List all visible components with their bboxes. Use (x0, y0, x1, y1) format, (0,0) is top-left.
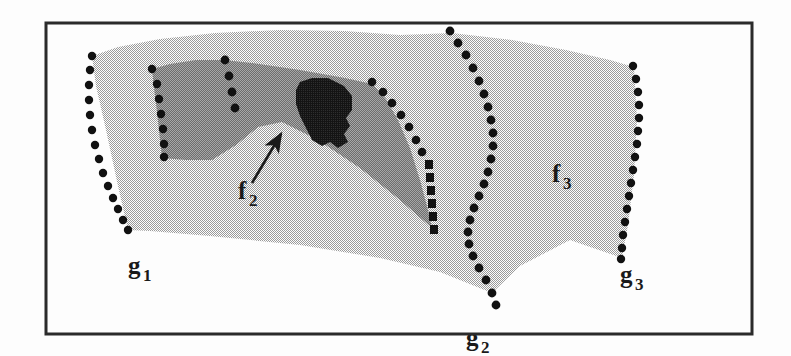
label-g2-base: g (466, 324, 479, 351)
figure-canvas: g 1 g 2 g 3 f 2 f 3 (0, 0, 791, 356)
label-g2: g 2 (466, 324, 490, 356)
label-f3-subscript: 3 (563, 174, 572, 193)
label-f2-base: f (238, 177, 247, 204)
label-f2-subscript: 2 (249, 191, 258, 210)
label-f3-base: f (552, 160, 561, 187)
label-g3: g 3 (620, 261, 644, 294)
label-g2-subscript: 2 (481, 338, 490, 356)
label-g3-subscript: 3 (635, 275, 644, 294)
label-g1-subscript: 1 (143, 266, 152, 285)
figure-container: g 1 g 2 g 3 f 2 f 3 (0, 0, 791, 356)
label-g1-base: g (128, 252, 141, 279)
label-g1: g 1 (128, 252, 152, 285)
label-g3-base: g (620, 261, 633, 288)
